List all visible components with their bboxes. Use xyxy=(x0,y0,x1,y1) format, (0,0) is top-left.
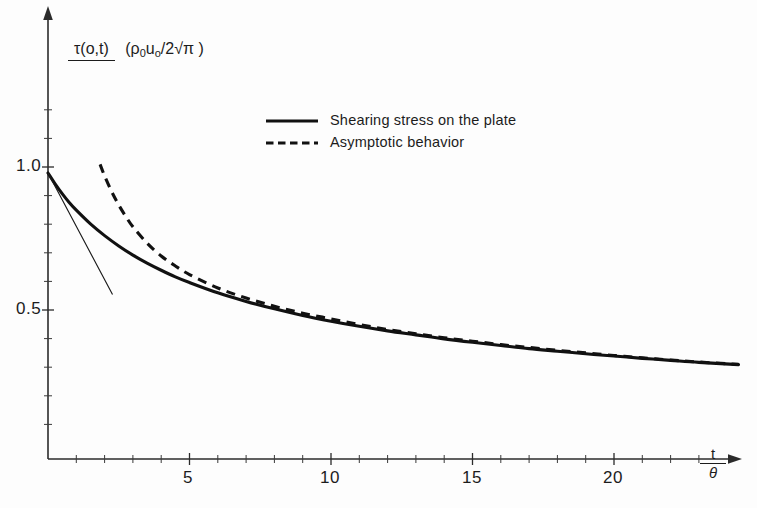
x-tick-label-20: 20 xyxy=(603,468,623,488)
y-tick-label-0: 0.5 xyxy=(16,299,41,319)
legend-label-shearing-stress: Shearing stress on the plate xyxy=(330,112,516,128)
curve-shearing-stress xyxy=(48,173,739,365)
y-axis-label-rho: ρ xyxy=(131,40,140,57)
x-axis-label-numerator: t xyxy=(700,446,726,464)
y-axis-label: τ(o,t) (ρ0uo/2√π ) xyxy=(68,38,210,61)
y-tick-label-1: 1.0 xyxy=(16,156,41,176)
x-tick-label-5: 5 xyxy=(183,468,193,488)
x-tick-label-15: 15 xyxy=(462,468,482,488)
y-axis-label-rest: /2√π ) xyxy=(161,40,204,57)
x-axis-arrow xyxy=(728,454,742,464)
x-axis-label: t θ xyxy=(700,446,726,481)
legend-label-asymptotic-behavior: Asymptotic behavior xyxy=(330,134,464,150)
y-axis-label-u: u xyxy=(146,40,155,57)
plot-area xyxy=(0,0,757,508)
figure-canvas: τ(o,t) (ρ0uo/2√π ) 1.0 0.5 5 10 15 20 t … xyxy=(0,0,757,508)
x-tick-label-10: 10 xyxy=(320,468,340,488)
y-axis-arrow xyxy=(43,6,53,20)
y-axis-label-numerator: τ(o,t) xyxy=(74,40,109,57)
x-axis-label-denominator: θ xyxy=(700,464,726,481)
